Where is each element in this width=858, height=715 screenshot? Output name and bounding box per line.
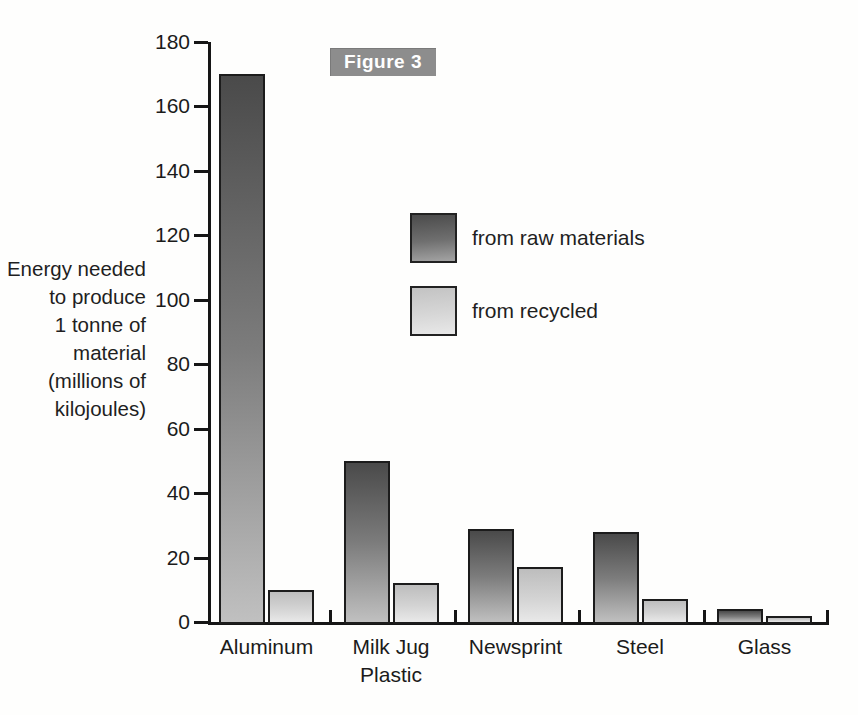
group-separator-tick bbox=[329, 610, 332, 625]
y-tick bbox=[194, 299, 208, 302]
y-tick-label: 60 bbox=[134, 416, 190, 442]
figure-badge: Figure 3 bbox=[330, 48, 436, 76]
y-tick-label: 20 bbox=[134, 545, 190, 571]
y-axis-title: Energy needed to produce 1 tonne of mate… bbox=[4, 255, 146, 423]
bar-raw-newsprint bbox=[468, 529, 514, 624]
bar-recycled-aluminum bbox=[268, 590, 314, 624]
bar-raw-steel bbox=[593, 532, 639, 624]
y-tick bbox=[194, 234, 208, 237]
y-tick-label: 100 bbox=[134, 287, 190, 313]
y-tick bbox=[194, 557, 208, 560]
legend-label-recycled: from recycled bbox=[472, 299, 598, 323]
y-tick-label: 40 bbox=[134, 480, 190, 506]
category-label-glass: Glass bbox=[685, 633, 845, 661]
legend-swatch-raw-icon bbox=[410, 213, 457, 263]
y-tick-label: 180 bbox=[134, 29, 190, 55]
group-separator-tick bbox=[703, 610, 706, 625]
y-tick-label: 140 bbox=[134, 158, 190, 184]
y-tick bbox=[194, 41, 208, 44]
group-separator-tick bbox=[826, 610, 829, 625]
y-tick bbox=[194, 621, 208, 624]
y-tick-label: 80 bbox=[134, 351, 190, 377]
y-tick bbox=[194, 105, 208, 108]
figure-page: Figure 3 Energy needed to produce 1 tonn… bbox=[0, 0, 858, 715]
bar-raw-milk-jug-plastic bbox=[344, 461, 390, 624]
bar-raw-glass bbox=[717, 609, 763, 624]
y-tick-label: 120 bbox=[134, 222, 190, 248]
legend-swatch-recycled-icon bbox=[410, 286, 457, 336]
y-tick-label: 0 bbox=[134, 609, 190, 635]
bar-recycled-newsprint bbox=[517, 567, 563, 624]
y-tick bbox=[194, 428, 208, 431]
group-separator-tick bbox=[454, 610, 457, 625]
y-tick bbox=[194, 363, 208, 366]
legend-item-recycled: from recycled bbox=[410, 286, 598, 336]
bar-recycled-milk-jug-plastic bbox=[393, 583, 439, 624]
group-separator-tick bbox=[578, 610, 581, 625]
y-axis-line bbox=[208, 42, 211, 625]
y-tick bbox=[194, 170, 208, 173]
y-tick bbox=[194, 492, 208, 495]
legend-label-raw: from raw materials bbox=[472, 226, 645, 250]
bar-recycled-glass bbox=[766, 616, 812, 624]
legend-item-raw-materials: from raw materials bbox=[410, 213, 645, 263]
y-tick-label: 160 bbox=[134, 93, 190, 119]
bar-raw-aluminum bbox=[219, 74, 265, 624]
bar-recycled-steel bbox=[642, 599, 688, 624]
